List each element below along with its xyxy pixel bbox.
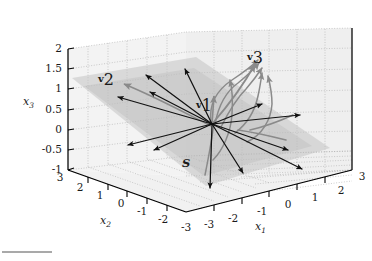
tick-x2-3: 0 (118, 197, 125, 209)
tick-x2-2: 1 (97, 189, 104, 201)
tick-x3-1: 1.5 (45, 62, 62, 74)
tick-x2-6: -3 (181, 221, 191, 233)
tick-x3-5: -0.5 (42, 143, 62, 155)
tick-x1-6: 3 (359, 170, 366, 182)
tick-x1-4: 1 (312, 191, 319, 203)
tick-x1-2: -1 (257, 205, 267, 217)
tick-labels-x3: 2 1.5 1 0.5 0 -0.5 -1 (42, 42, 62, 175)
tick-x3-0: 2 (55, 42, 62, 54)
tick-x1-0: -3 (204, 218, 214, 230)
tick-x2-5: -2 (158, 213, 168, 225)
tick-x1-3: 0 (285, 198, 292, 210)
axis-label-x1: x1 (255, 220, 266, 235)
tick-x1-1: -2 (228, 212, 238, 224)
phase-portrait-svg: 2 1.5 1 0.5 0 -0.5 -1 3 2 1 0 -1 -2 -3 -… (0, 0, 372, 261)
tick-x2-1: 2 (77, 181, 84, 193)
tick-x2-4: -1 (137, 205, 147, 217)
annotation-plane-S: S (182, 156, 190, 170)
tick-x3-3: 0.5 (45, 103, 62, 115)
axis-label-x2: x2 (100, 214, 111, 229)
tick-x3-2: 1 (55, 82, 62, 94)
figure-container: 2 1.5 1 0.5 0 -0.5 -1 3 2 1 0 -1 -2 -3 -… (0, 0, 372, 261)
tick-x3-4: 0 (55, 123, 62, 135)
tick-x1-5: 2 (338, 184, 345, 196)
axis-label-x3: x3 (23, 95, 34, 110)
tick-x2-0: 3 (57, 171, 64, 183)
